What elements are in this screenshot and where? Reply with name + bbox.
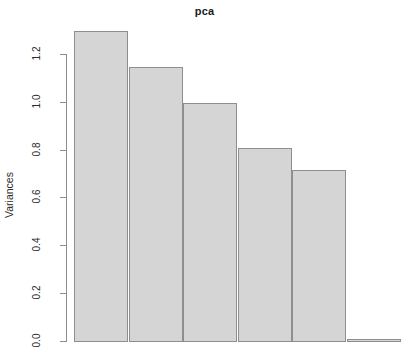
bar-6: [347, 339, 401, 342]
bar-series: [0, 0, 409, 363]
bar-2: [129, 67, 183, 342]
bar-1: [74, 31, 128, 342]
bar-3: [183, 103, 237, 342]
bar-4: [238, 148, 292, 342]
screeplot-figure: pca Variances 1.21.00.80.60.40.20.0: [0, 0, 409, 363]
bar-5: [292, 170, 346, 342]
